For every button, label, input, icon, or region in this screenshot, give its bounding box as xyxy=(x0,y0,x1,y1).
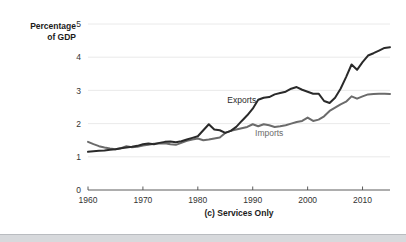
y-tick-label-2: 2 xyxy=(76,119,81,129)
y-tick-label-0: 0 xyxy=(76,185,81,195)
chart-figure: 012345 196019701980199020002010 Percenta… xyxy=(0,0,406,242)
x-tick-label-1990: 1990 xyxy=(243,195,262,205)
x-axis-tick-labels: 196019701980199020002010 xyxy=(79,195,373,205)
x-tick-label-1970: 1970 xyxy=(133,195,152,205)
footer-bar xyxy=(0,234,406,242)
x-tick-label-1980: 1980 xyxy=(188,195,207,205)
services-only-line-chart: 012345 196019701980199020002010 Percenta… xyxy=(0,0,406,242)
y-tick-label-1: 1 xyxy=(76,152,81,162)
y-axis-title-line2: of GDP xyxy=(47,32,76,42)
y-tick-label-5: 5 xyxy=(76,19,81,29)
x-tick-label-1960: 1960 xyxy=(79,195,98,205)
exports-series-label: Exports xyxy=(227,95,256,105)
y-tick-label-4: 4 xyxy=(76,52,81,62)
y-axis-tick-labels: 012345 xyxy=(76,19,81,195)
gridlines-group xyxy=(88,24,390,157)
y-tick-label-3: 3 xyxy=(76,86,81,96)
x-tick-label-2000: 2000 xyxy=(298,195,317,205)
y-axis-title-line1: Percentage xyxy=(30,21,76,31)
tickmarks-group xyxy=(88,187,363,191)
imports-series-label: Imports xyxy=(255,128,283,138)
chart-caption: (c) Services Only xyxy=(205,208,274,218)
x-tick-label-2010: 2010 xyxy=(353,195,372,205)
